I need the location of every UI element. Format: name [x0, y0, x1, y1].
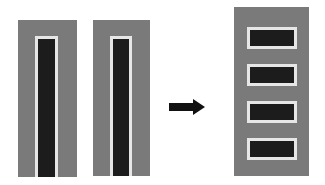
horizontal-bar-4 [247, 138, 297, 160]
right-arrow-icon [169, 99, 205, 115]
horizontal-bar-1 [247, 27, 297, 49]
right-panel [234, 7, 309, 176]
vertical-bar [35, 36, 58, 177]
horizontal-bar-3 [247, 101, 297, 123]
vertical-bar [110, 36, 132, 176]
horizontal-bar-2 [247, 64, 297, 86]
left-panel-1 [18, 20, 77, 177]
left-panel-2 [93, 20, 150, 176]
